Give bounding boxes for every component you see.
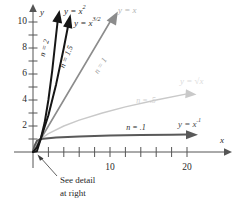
curve-label-x-3-2-base: y = x	[73, 18, 93, 28]
y-tick-label-2: 2	[22, 120, 27, 130]
x-tick-label-20: 20	[182, 162, 192, 172]
y-axis-label: y	[39, 7, 44, 17]
curve-label-x-squared: y = x2	[63, 4, 86, 16]
y-tick-label-10: 10	[18, 16, 28, 26]
x-tick-label-10: 10	[105, 162, 115, 172]
n-label-2: n = 2	[38, 38, 51, 57]
curve-label-x: y = x	[117, 5, 137, 15]
curve-sqrt-x	[33, 89, 197, 152]
curve-label-x-base: y = x	[117, 5, 137, 15]
curve-label-x-squared-base: y = x	[63, 6, 83, 16]
annotation-line-1: See detail	[60, 175, 96, 185]
curve-label-x-point-1-exponent: .1	[197, 117, 202, 124]
y-tick-label-4: 4	[22, 94, 27, 104]
curve-x	[33, 12, 118, 152]
power-functions-figure: 2 4 6 8 10 10 20 y x	[0, 0, 240, 210]
curve-label-x-squared-exponent: 2	[83, 4, 86, 11]
detail-annotation: See detail at right	[38, 155, 96, 199]
curve-x-point-1	[33, 130, 198, 152]
x-axis-arrowhead	[224, 148, 232, 156]
curve-arrowhead-sqrt-x	[185, 89, 196, 98]
figure-canvas: 2 4 6 8 10 10 20 y x	[0, 0, 240, 210]
n-label-point-5: n = .5	[136, 96, 155, 105]
curve-path-sqrt-x	[33, 94, 187, 152]
annotation-leader-line	[40, 157, 57, 176]
y-axis-arrowhead	[29, 4, 37, 12]
curve-label-x-point-1: y = x.1	[177, 117, 201, 129]
curve-label-sqrt-x-base: y = √x	[179, 76, 204, 86]
n-label-1: n = 1	[92, 56, 109, 76]
curve-arrowhead-x-point-1	[186, 130, 198, 139]
curve-label-x-point-1-base: y = x	[177, 119, 197, 129]
curve-arrowhead-x-squared	[52, 10, 62, 23]
y-tick-label-8: 8	[22, 42, 27, 52]
y-tick-label-6: 6	[22, 68, 27, 78]
curve-label-x-3-2-exponent: 3/2	[92, 16, 101, 23]
x-axis-label: x	[219, 135, 224, 145]
curve-path-x	[33, 19, 112, 153]
curve-label-x-3-2: y = x3/2	[73, 16, 100, 28]
n-label-point-1: n = .1	[126, 123, 145, 132]
annotation-line-2: at right	[60, 188, 86, 198]
curve-label-sqrt-x: y = √x	[179, 76, 204, 86]
n-label-1-5: n = 1.5	[58, 44, 75, 69]
curve-arrowhead-x-3-2	[63, 14, 72, 29]
